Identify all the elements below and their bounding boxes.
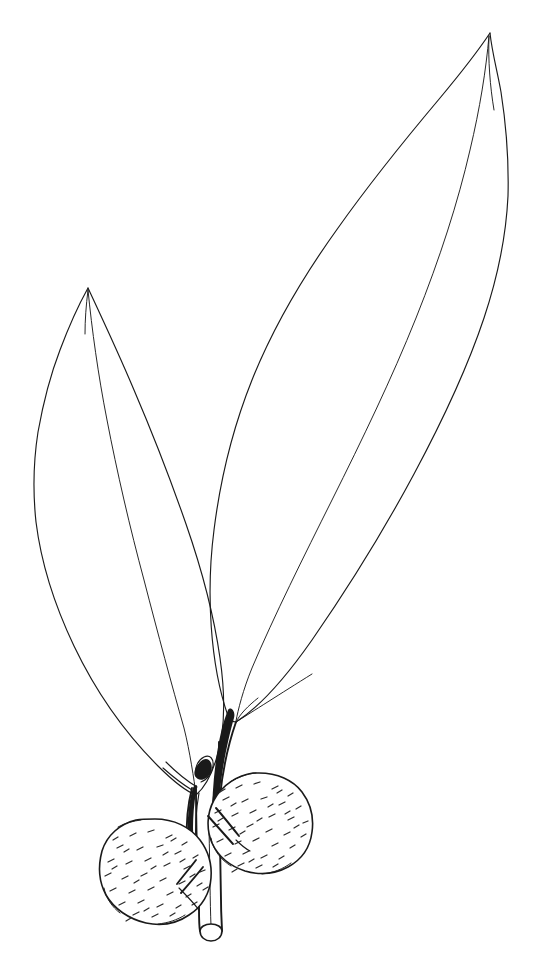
fruit-right-outline bbox=[208, 773, 313, 873]
botanical-drawing-canvas bbox=[0, 0, 538, 961]
fruit-left-outline bbox=[100, 819, 212, 924]
botanical-illustration bbox=[0, 0, 538, 961]
stem-cut-face bbox=[200, 924, 222, 941]
fruit-right bbox=[208, 773, 313, 874]
fruit-left bbox=[100, 819, 212, 924]
